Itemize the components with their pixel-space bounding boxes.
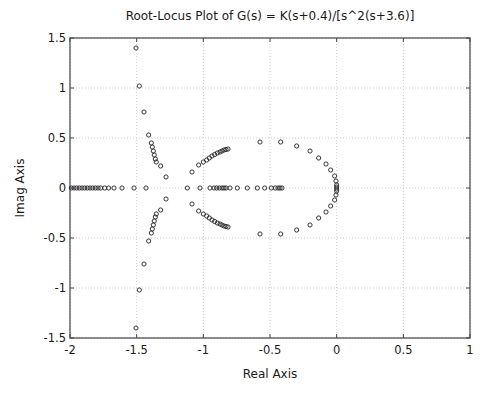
locus-point-marker xyxy=(255,186,259,190)
locus-point-marker xyxy=(308,223,312,227)
locus-point-marker xyxy=(295,228,299,232)
y-tick-label: -1.5 xyxy=(44,331,66,345)
locus-point-marker xyxy=(134,326,138,330)
locus-point-marker xyxy=(324,162,328,166)
x-tick-label: -1.5 xyxy=(125,343,147,357)
x-tick-label: -0.5 xyxy=(259,343,281,357)
locus-point-marker xyxy=(317,216,321,220)
locus-point-marker xyxy=(164,175,168,179)
x-tick-label: 0.5 xyxy=(394,343,412,357)
grid-lines xyxy=(70,38,470,338)
locus-point-marker xyxy=(147,239,151,243)
x-tick-label: 1 xyxy=(466,343,473,357)
locus-point-marker xyxy=(150,227,154,231)
locus-point-marker xyxy=(197,163,201,167)
y-tick-label: 1 xyxy=(59,81,66,95)
locus-point-marker xyxy=(258,232,262,236)
locus-point-marker xyxy=(263,186,267,190)
locus-point-marker xyxy=(164,197,168,201)
locus-point-marker xyxy=(149,231,153,235)
y-tick-label: 1.5 xyxy=(48,31,66,45)
x-axis-label: Real Axis xyxy=(243,367,298,381)
locus-point-marker xyxy=(334,193,338,197)
locus-point-marker xyxy=(152,153,156,157)
locus-point-marker xyxy=(142,110,146,114)
y-tick-label: -1 xyxy=(55,281,66,295)
locus-point-marker xyxy=(150,145,154,149)
locus-point-marker xyxy=(333,198,337,202)
locus-point-marker xyxy=(137,84,141,88)
locus-point-marker xyxy=(142,262,146,266)
locus-point-marker xyxy=(147,133,151,137)
locus-point-marker xyxy=(137,288,141,292)
locus-point-marker xyxy=(295,144,299,148)
locus-point-marker xyxy=(329,204,333,208)
y-tick-label: 0 xyxy=(59,181,66,195)
locus-point-marker xyxy=(334,179,338,183)
y-axis-label: Imag Axis xyxy=(13,159,27,218)
locus-point-marker xyxy=(151,223,155,227)
locus-point-marker xyxy=(279,140,283,144)
locus-point-marker xyxy=(317,156,321,160)
x-tick-label: -2 xyxy=(64,343,75,357)
locus-point-marker xyxy=(279,232,283,236)
locus-point-marker xyxy=(151,149,155,153)
root-locus-plot: -2-1.5-1-0.500.51-1.5-1-0.500.511.5 Real… xyxy=(0,0,493,396)
locus-point-marker xyxy=(190,202,194,206)
x-tick-label: 0 xyxy=(333,343,340,357)
locus-point-marker xyxy=(149,141,153,145)
locus-point-marker xyxy=(258,140,262,144)
y-tick-label: -0.5 xyxy=(44,231,66,245)
locus-point-marker xyxy=(159,208,163,212)
x-tick-label: -1 xyxy=(198,343,209,357)
locus-point-marker xyxy=(152,219,156,223)
locus-point-marker xyxy=(329,168,333,172)
locus-point-marker xyxy=(324,210,328,214)
locus-point-marker xyxy=(134,46,138,50)
locus-point-marker xyxy=(308,149,312,153)
locus-point-marker xyxy=(333,174,337,178)
locus-point-marker xyxy=(159,164,163,168)
y-tick-label: 0.5 xyxy=(48,131,66,145)
locus-point-marker xyxy=(197,209,201,213)
axis-ticks: -2-1.5-1-0.500.51-1.5-1-0.500.511.5 xyxy=(44,31,474,357)
locus-point-marker xyxy=(190,170,194,174)
